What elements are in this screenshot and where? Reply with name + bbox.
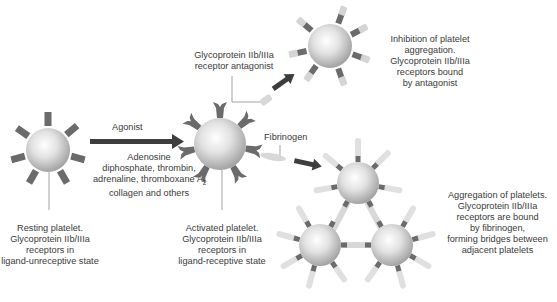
fibrinogen-molecule-icon	[260, 151, 287, 162]
antagonist-molecule-icon	[259, 94, 273, 107]
agonist-description: Adenosine diphosphate, thrombin, adrenal…	[93, 152, 205, 199]
agonist-title: Agonist	[112, 122, 143, 133]
antagonist-caption: Glycoprotein IIb/IIIa receptor antagonis…	[189, 50, 279, 72]
resting-platelet	[10, 112, 85, 185]
activated-platelet-caption: Activated platelet. Glycoprotein IIb/III…	[168, 223, 276, 267]
agonist-line: collagen and others	[93, 188, 205, 199]
inhibition-arrow	[270, 69, 298, 94]
aggregation-arrow	[293, 155, 323, 173]
agonist-line: Adenosine	[93, 152, 205, 163]
inhibited-platelet	[288, 5, 370, 86]
fibrinogen-label: Fibrinogen	[264, 132, 307, 143]
antagonist-leader-line	[232, 76, 262, 102]
resting-platelet-caption: Resting platelet. Glycoprotein IIb/IIIa …	[0, 223, 100, 267]
aggregation-caption: Aggregation of platelets. Glycoprotein I…	[440, 190, 555, 256]
agonist-line: diphosphate, thrombin,	[93, 163, 205, 174]
agonist-line: adrenaline, thromboxane A2	[93, 174, 205, 188]
agonist-arrow	[90, 134, 184, 149]
inhibition-caption: Inhibition of platelet aggregation. Glyc…	[375, 34, 485, 89]
